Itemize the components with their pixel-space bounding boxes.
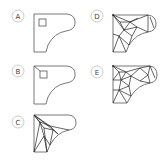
label-c: C	[16, 119, 21, 127]
panel-b: B	[12, 65, 75, 104]
panel-c: C	[12, 115, 76, 152]
shape-outline-e	[113, 66, 157, 103]
label-a: A	[16, 13, 21, 21]
shape-outline-a	[34, 14, 75, 52]
panel-e: E	[91, 65, 157, 103]
shape-outline-c	[34, 115, 76, 152]
panel-a: A	[12, 10, 75, 52]
label-e: E	[95, 69, 99, 77]
figure-canvas: A B C D E	[0, 0, 160, 162]
panel-d: D	[91, 10, 156, 52]
label-b: B	[16, 68, 21, 76]
label-d: D	[94, 13, 99, 21]
